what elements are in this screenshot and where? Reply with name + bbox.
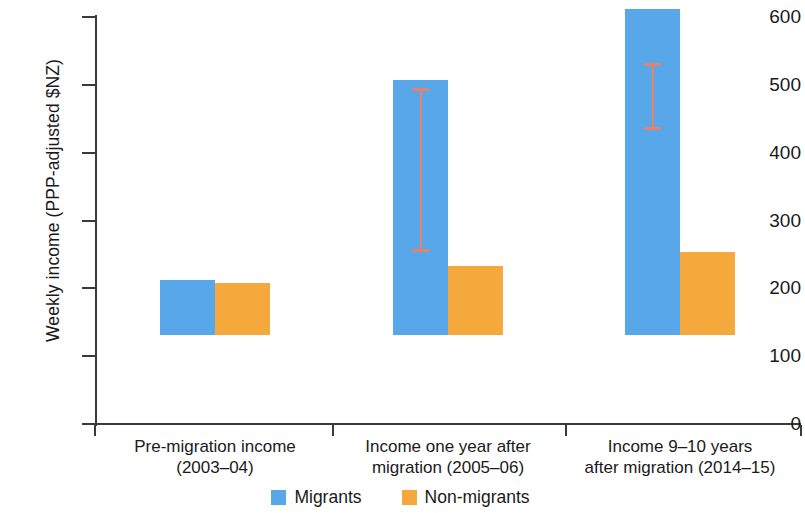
bar-non-migrants (215, 283, 270, 335)
legend-swatch-icon (271, 490, 286, 505)
x-axis-category-label: Pre-migration income(2003–04) (90, 436, 340, 478)
category-label-line: Pre-migration income (90, 436, 340, 457)
x-axis-tick (800, 425, 802, 436)
chart-legend: MigrantsNon-migrants (0, 487, 801, 508)
category-label-line: (2003–04) (90, 457, 340, 478)
category-label-line: after migration (2014–15) (555, 457, 805, 478)
error-bar-stem (420, 88, 422, 253)
x-axis-tick (94, 425, 96, 436)
bar-migrants (160, 280, 215, 335)
legend-item-non-migrants[interactable]: Non-migrants (402, 487, 530, 508)
legend-label: Non-migrants (425, 487, 530, 508)
x-axis-category-label: Income 9–10 yearsafter migration (2014–1… (555, 436, 805, 478)
x-axis-tick (332, 425, 334, 436)
error-bar-cap-upper (412, 88, 429, 91)
error-bar-stem (652, 63, 654, 129)
category-label-line: migration (2005–06) (323, 457, 573, 478)
error-bar-cap-lower (644, 127, 661, 130)
error-bar-cap-upper (644, 63, 661, 66)
x-axis-tick (565, 425, 567, 436)
bar-migrants (625, 9, 680, 335)
x-axis-category-label: Income one year aftermigration (2005–06) (323, 436, 573, 478)
legend-swatch-icon (402, 490, 417, 505)
category-label-line: Income one year after (323, 436, 573, 457)
error-bar (625, 63, 680, 129)
legend-label: Migrants (294, 487, 361, 508)
error-bar (393, 88, 448, 253)
bar-non-migrants (680, 252, 735, 335)
error-bar-cap-lower (412, 249, 429, 252)
bars-layer (0, 0, 801, 424)
legend-item-migrants[interactable]: Migrants (271, 487, 361, 508)
category-label-line: Income 9–10 years (555, 436, 805, 457)
bar-non-migrants (448, 266, 503, 335)
